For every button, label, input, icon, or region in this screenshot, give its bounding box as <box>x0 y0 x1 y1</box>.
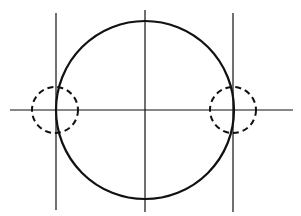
circle-tangent-diagram <box>0 0 301 216</box>
